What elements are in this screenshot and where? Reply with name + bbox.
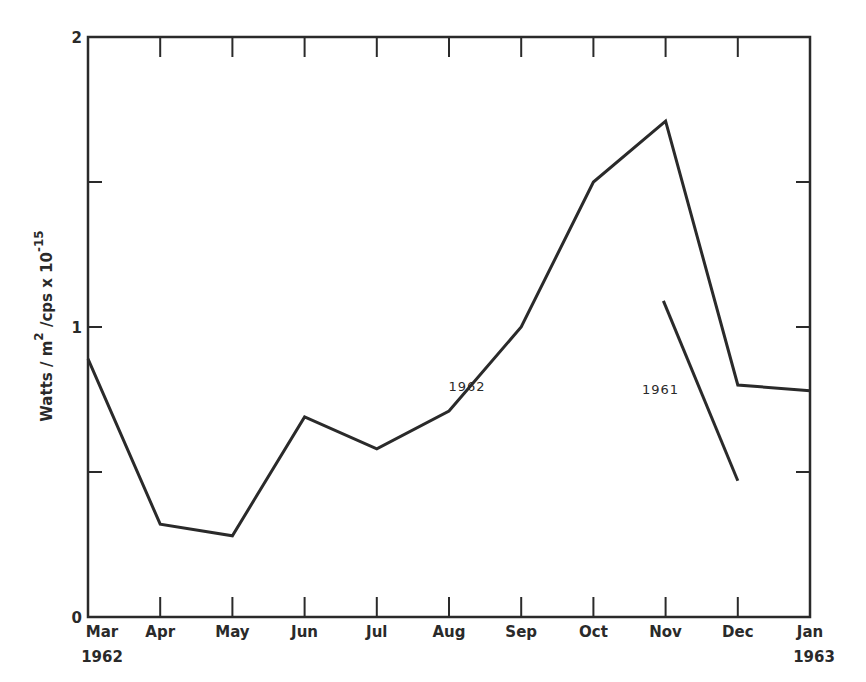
x-tick-label: Aug [432, 623, 465, 641]
x-tick-label: Oct [579, 623, 608, 641]
x-axis-labels: Mar1962AprMayJunJulAugSepOctNovDecJan196… [81, 623, 835, 666]
y-axis-labels: 012 [72, 29, 82, 627]
x-tick-label: May [215, 623, 250, 641]
x-tick-label: Sep [505, 623, 537, 641]
series-label-1962: 1962 [449, 379, 486, 394]
x-tick-sublabel: 1963 [793, 648, 835, 666]
x-tick-label: Dec [722, 623, 754, 641]
y-tick-label: 1 [72, 319, 82, 337]
x-tick-label: Nov [649, 623, 682, 641]
x-tick-label: Jan [796, 623, 823, 641]
series-label-1961: 1961 [642, 382, 679, 397]
series-labels: 19621961 [449, 379, 680, 397]
x-tick-label: Mar [86, 623, 119, 641]
x-tick-sublabel: 1962 [81, 648, 123, 666]
y-axis-title: Watts / m2 /cps x 10-15 [32, 230, 56, 421]
series-line-1962 [88, 121, 810, 536]
y-tick-label: 2 [72, 29, 82, 47]
x-tick-label: Jun [290, 623, 318, 641]
data-series [88, 121, 810, 536]
y-tick-label: 0 [72, 609, 82, 627]
x-tick-label: Jul [365, 623, 387, 641]
line-chart: Mar1962AprMayJunJulAugSepOctNovDecJan196… [0, 0, 866, 682]
x-tick-label: Apr [145, 623, 175, 641]
